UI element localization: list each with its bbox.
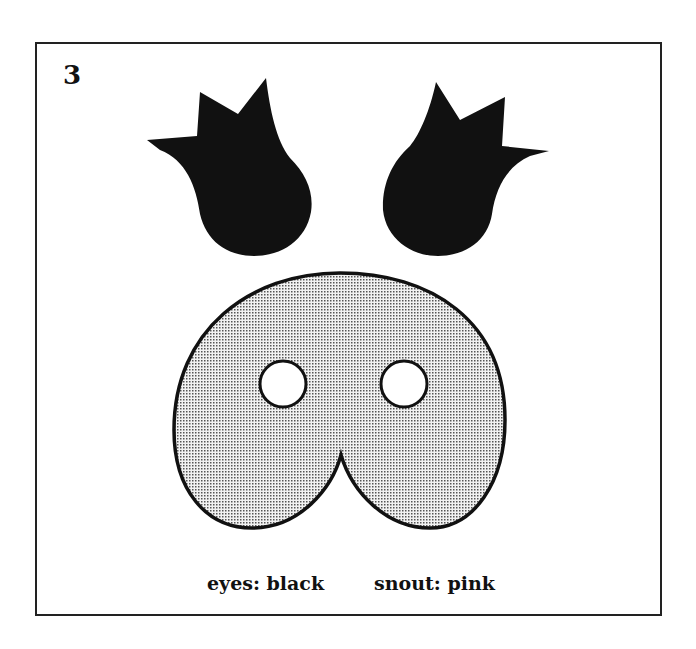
right-eye-shape [383, 82, 549, 256]
snout-color-label: snout: pink [374, 572, 495, 594]
eyes-color-label: eyes: black [207, 572, 324, 594]
right-nostril [381, 361, 427, 407]
left-nostril [260, 361, 306, 407]
snout-shape [174, 273, 505, 528]
left-eye-shape [147, 78, 312, 256]
craft-template-art [0, 0, 696, 649]
